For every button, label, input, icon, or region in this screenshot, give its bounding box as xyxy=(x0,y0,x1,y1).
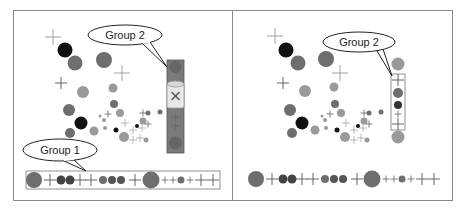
row-group[interactable] xyxy=(26,171,220,189)
diagram-canvas: Group 2 Group 1 xyxy=(0,0,466,214)
panel-after: Group 2 xyxy=(248,28,440,188)
column-group[interactable] xyxy=(391,58,405,144)
callout-group-2-right: Group 2 xyxy=(323,32,395,76)
trash-can-x-icon[interactable] xyxy=(167,81,184,108)
callout-label: Group 2 xyxy=(339,36,379,48)
row-group[interactable] xyxy=(248,171,440,188)
panel-before: Group 2 Group 1 xyxy=(23,25,220,189)
callout-group-1: Group 1 xyxy=(23,139,97,171)
callout-label: Group 1 xyxy=(40,144,80,156)
column-group-deleting[interactable] xyxy=(167,60,184,153)
callout-label: Group 2 xyxy=(105,29,145,41)
